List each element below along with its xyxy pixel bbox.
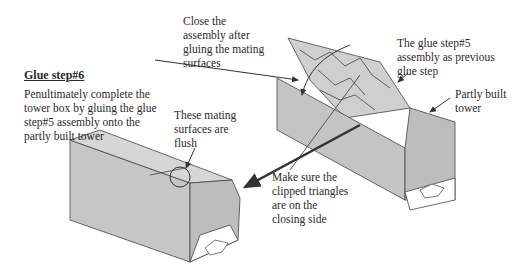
annotation-close-assembly: Close the assembly after gluing the mati… (183, 14, 264, 70)
annotation-partly-built: Partly built tower (455, 87, 506, 115)
annotation-clipped-triangles: Make sure the clipped triangles are on t… (272, 170, 348, 226)
step-title: Glue step#6 (24, 68, 84, 83)
annotation-flush: These mating surfaces are flush (174, 108, 236, 150)
step-instruction: Penultimately complete the tower box by … (24, 87, 157, 143)
annotation-glue-step5: The glue step#5 assembly as previous glu… (397, 36, 495, 78)
